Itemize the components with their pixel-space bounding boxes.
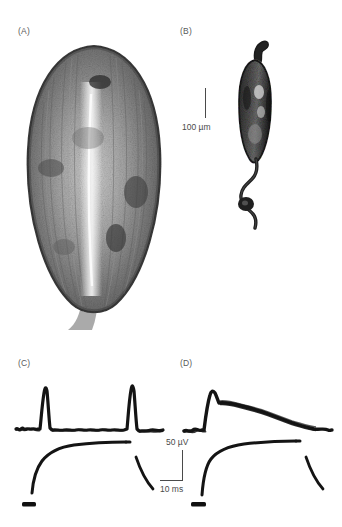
trace-c-receptor: [16, 386, 163, 432]
micrograph-panel-b: [225, 36, 287, 228]
trace-c-stimulus: [32, 442, 153, 493]
calibration-voltage-label: 50 µV: [166, 437, 188, 447]
calibration-horizontal-segment: [160, 480, 183, 481]
panel-label-a: (A): [18, 26, 30, 36]
scale-bar-line: [205, 88, 206, 118]
scale-bar-label: 100 µm: [182, 122, 211, 132]
figure-container: (A): [0, 0, 342, 527]
trace-d-stimulus: [202, 441, 323, 495]
recording-panel-c: [14, 375, 166, 510]
trace-d-receptor: [184, 391, 332, 432]
calibration-vertical-segment: [182, 450, 183, 481]
panel-label-d: (D): [180, 358, 192, 368]
calibration-time-label: 10 ms: [160, 484, 183, 494]
stimulus-marker-d: [191, 502, 206, 507]
stimulus-marker-c: [22, 502, 36, 507]
panel-label-c: (C): [18, 358, 30, 368]
panel-label-b: (B): [180, 26, 192, 36]
micrograph-panel-a: [18, 42, 170, 330]
recording-panel-d: [182, 375, 334, 510]
